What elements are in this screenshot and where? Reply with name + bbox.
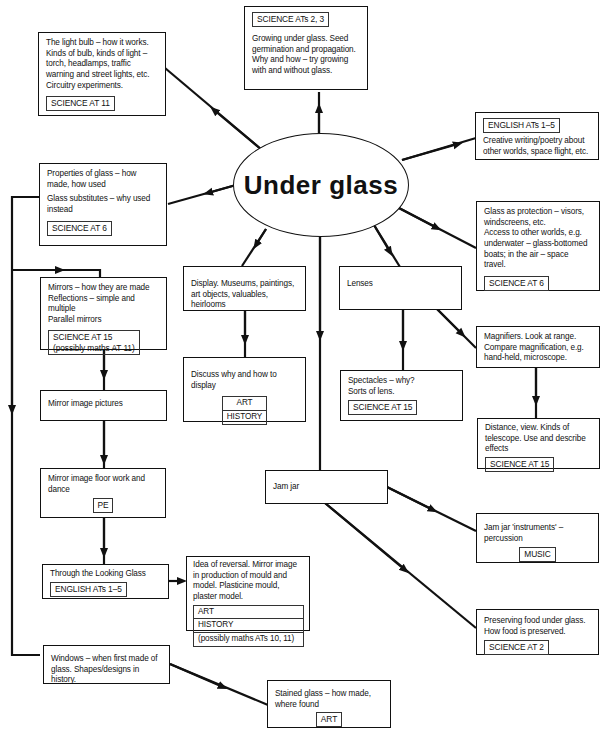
node-text: Magnifiers. Look at range. Compare magni… [484, 332, 592, 364]
subject-tag: SCIENCE AT 15 [348, 400, 417, 415]
node-light-bulb: The light bulb – how it works. Kinds of … [38, 32, 166, 116]
node-text: Through the Looking Glass [50, 569, 161, 580]
node-text: Stained glass – how made, where found [275, 689, 383, 710]
node-english-creative: ENGLISH ATs 1–5 Creative writing/poetry … [475, 112, 599, 160]
node-looking-glass: Through the Looking Glass ENGLISH ATs 1–… [42, 564, 169, 599]
node-jam-jar: Jam jar [265, 470, 388, 504]
subject-tag: MUSIC [519, 547, 556, 562]
subject-tag: SCIENCE AT 15 [485, 457, 554, 472]
subject-tag: HISTORY [194, 619, 303, 633]
subject-tag: SCIENCE ATs 2, 3 [252, 12, 329, 27]
node-magnifiers: Magnifiers. Look at range. Compare magni… [476, 326, 600, 368]
node-text: Properties of glass – how made, how used [47, 169, 159, 190]
edge-properties-loop [12, 197, 40, 655]
node-mirror-pictures: Mirror image pictures [40, 390, 167, 421]
arrow-to-light-bulb [214, 110, 262, 150]
node-lenses: Lenses [339, 266, 462, 310]
node-text: Growing under glass. Seed germination an… [252, 34, 360, 77]
node-properties: Properties of glass – how made, how used… [39, 163, 167, 246]
subject-tag: PE [93, 498, 114, 513]
subject-tag-note: (possibly maths AT 11) [53, 343, 135, 354]
node-text: Creative writing/poetry about other worl… [483, 136, 591, 157]
node-stained: Stained glass – how made, where found AR… [267, 680, 391, 728]
node-discuss: Discuss why and how to display ART HISTO… [183, 357, 306, 422]
node-text: Display. Museums, paintings, art objects… [191, 279, 298, 311]
node-text: Discuss why and how to display [191, 370, 298, 391]
subject-tag: SCIENCE AT 15 [53, 332, 135, 343]
subject-tag: ART [194, 606, 303, 620]
node-text: Idea of reversal. Mirror image in produc… [193, 560, 303, 603]
subject-tag: ENGLISH ATs 1–5 [483, 118, 560, 133]
node-text: Lenses [347, 279, 454, 290]
subject-tag-note: (possibly maths ATs 10, 11) [194, 633, 303, 646]
node-distance: Distance, view. Kinds of telescope. Use … [477, 418, 600, 469]
node-text: Mirrors – how they are made [48, 283, 159, 294]
node-spectacles: Spectacles – why? Sorts of lens. SCIENCE… [340, 370, 463, 421]
node-protection: Glass as protection – visors, windscreen… [476, 201, 600, 291]
node-text: Jam jar 'instruments' – percussion [484, 523, 591, 544]
subject-tag: ENGLISH ATs 1–5 [50, 582, 127, 597]
node-text: Access to other worlds, e.g. underwater … [484, 228, 592, 271]
subject-tag: SCIENCE AT 6 [484, 276, 549, 291]
subject-tag: ART [223, 397, 266, 411]
node-text: Distance, view. Kinds of telescope. Use … [485, 423, 592, 455]
subject-tag: SCIENCE AT 2 [484, 640, 549, 655]
node-text: Glass as protection – visors, windscreen… [484, 207, 592, 228]
node-text: Reflections – simple and multiple [48, 294, 159, 315]
node-text: The light bulb – how it works. Kinds of … [46, 38, 158, 91]
node-growing: SCIENCE ATs 2, 3 Growing under glass. Se… [244, 6, 368, 90]
central-topic: Under glass [233, 133, 409, 237]
node-text: Parallel mirrors [48, 315, 159, 326]
subject-tag: HISTORY [223, 411, 266, 424]
subject-tag: SCIENCE AT 11 [46, 96, 115, 111]
node-text: Spectacles – why? [348, 376, 455, 387]
node-text: Mirror image pictures [48, 399, 159, 410]
node-text: Jam jar [273, 482, 380, 493]
node-text: Preserving food under glass. How food is… [484, 616, 591, 637]
node-text: Sorts of lens. [348, 387, 455, 398]
subject-tag: ART [316, 712, 342, 727]
node-mirrors: Mirrors – how they are made Reflections … [40, 277, 167, 350]
subject-tag: SCIENCE AT 6 [47, 221, 112, 236]
node-text: Glass substitutes – why used instead [47, 194, 159, 215]
node-floor-work: Mirror image floor work and dance PE [40, 468, 166, 518]
node-text: Mirror image floor work and dance [48, 474, 158, 495]
node-text: Windows – when first made of glass. Shap… [51, 654, 162, 686]
node-windows: Windows – when first made of glass. Shap… [43, 645, 170, 684]
node-display: Display. Museums, paintings, art objects… [183, 266, 306, 311]
node-jam-instruments: Jam jar 'instruments' – percussion MUSIC [476, 513, 599, 563]
node-reversal: Idea of reversal. Mirror image in produc… [186, 556, 310, 631]
node-preserving: Preserving food under glass. How food is… [476, 609, 599, 655]
